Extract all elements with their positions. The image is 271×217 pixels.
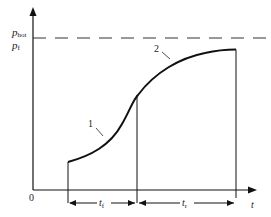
p-f-label: pf	[11, 39, 21, 52]
tr-left-arrow-icon	[139, 200, 146, 206]
diagram-canvas: phot pf 0 t 1 2 tf tr	[0, 0, 271, 217]
curve-label-1: 1	[88, 118, 93, 129]
diagram-svg: phot pf 0 t 1 2 tf tr	[0, 0, 271, 217]
tr-right-arrow-icon	[227, 200, 234, 206]
tf-right-arrow-icon	[128, 200, 135, 206]
pressure-curve	[68, 50, 236, 163]
x-axis-arrow-icon	[248, 187, 257, 194]
p-hot-label: phot	[11, 26, 27, 39]
x-axis-label: t	[251, 199, 254, 210]
label-1-leader	[96, 128, 103, 136]
origin-label: 0	[29, 192, 34, 203]
curve-label-2: 2	[154, 43, 159, 54]
y-axis-arrow-icon	[30, 7, 37, 16]
tf-left-arrow-icon	[69, 200, 76, 206]
label-2-leader	[162, 52, 170, 59]
